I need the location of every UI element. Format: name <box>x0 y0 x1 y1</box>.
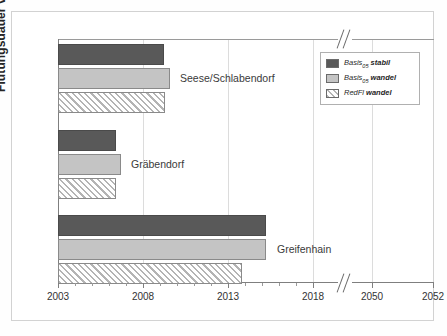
legend-item-basis05-stabil: Basis05 stabil <box>326 57 414 70</box>
x-tick-minor-2005 <box>92 283 93 286</box>
legend-label-base-0: Basis <box>344 58 362 67</box>
chart-legend: Basis05 stabil Basis05 wandel RedFl wand… <box>320 52 420 105</box>
legend-item-redfl-wandel: RedFl wandel <box>326 87 414 100</box>
group-label-greifenhain: Greifenhain <box>277 243 331 255</box>
x-axis-label-2050: 2050 <box>361 291 383 302</box>
y-axis-title: Flutungsdauer von Tagebauseen <box>0 0 8 92</box>
legend-label-suffix-0: stabil <box>371 58 391 67</box>
x-tick-minor-2014 <box>245 283 246 286</box>
x-tick-2013 <box>228 283 229 288</box>
x-tick-minor-2016 <box>279 283 280 286</box>
chart-figure: Flutungsdauer von Tagebauseen Seese/Schl… <box>0 0 447 336</box>
legend-label-suffix-1: wandel <box>371 73 396 82</box>
legend-label-redfl-wandel: RedFl wandel <box>344 88 392 99</box>
legend-label-sub-0: 05 <box>362 63 368 69</box>
legend-label-sub-1: 05 <box>362 78 368 84</box>
x-tick-2003 <box>58 283 59 288</box>
bar-greifenhain-redfl-wandel <box>58 263 242 284</box>
x-tick-minor-2007 <box>126 283 127 286</box>
x-tick-minor-2006 <box>109 283 110 286</box>
x-tick-2050 <box>372 283 373 288</box>
legend-swatch-basis05-wandel <box>326 74 339 83</box>
bar-greifenhain-basis05-wandel <box>58 239 266 260</box>
x-tick-minor-2009 <box>160 283 161 286</box>
legend-label-basis05-stabil: Basis05 stabil <box>344 58 390 69</box>
x-axis-label-2013: 2013 <box>217 291 239 302</box>
x-tick-2052 <box>433 283 434 288</box>
legend-label-base-1: Basis <box>344 73 362 82</box>
x-axis-label-2052: 2052 <box>422 291 444 302</box>
x-tick-minor-2011 <box>194 283 195 286</box>
legend-label-base-2: RedFl <box>344 88 364 97</box>
plot-top-border <box>58 39 434 40</box>
x-tick-minor-2010 <box>177 283 178 286</box>
x-axis-label-2003: 2003 <box>47 291 69 302</box>
x-tick-2008 <box>143 283 144 288</box>
bar-graebendorf-basis05-stabil <box>58 130 116 151</box>
x-tick-minor-2017 <box>296 283 297 286</box>
bar-seese-redfl-wandel <box>58 92 165 113</box>
bar-graebendorf-basis05-wandel <box>58 154 121 175</box>
group-label-seese: Seese/Schlabendorf <box>180 72 275 84</box>
legend-item-basis05-wandel: Basis05 wandel <box>326 72 414 85</box>
group-label-graebendorf: Gräbendorf <box>131 158 184 170</box>
bar-seese-basis05-wandel <box>58 68 170 89</box>
x-tick-2018 <box>313 283 314 288</box>
x-tick-minor-2004 <box>75 283 76 286</box>
bar-graebendorf-redfl-wandel <box>58 178 116 199</box>
x-tick-minor-2012 <box>211 283 212 286</box>
x-axis-label-2008: 2008 <box>132 291 154 302</box>
legend-label-basis05-wandel: Basis05 wandel <box>344 73 396 84</box>
x-axis-label-2018: 2018 <box>302 291 324 302</box>
legend-label-suffix-2: wandel <box>366 88 391 97</box>
legend-swatch-basis05-stabil <box>326 59 339 68</box>
legend-swatch-redfl-wandel <box>326 89 339 98</box>
bar-seese-basis05-stabil <box>58 44 164 65</box>
bar-greifenhain-basis05-stabil <box>58 215 266 236</box>
x-tick-minor-2015 <box>262 283 263 286</box>
axis-break-mask-top <box>338 33 352 46</box>
axis-break-mask-bottom <box>338 276 352 289</box>
